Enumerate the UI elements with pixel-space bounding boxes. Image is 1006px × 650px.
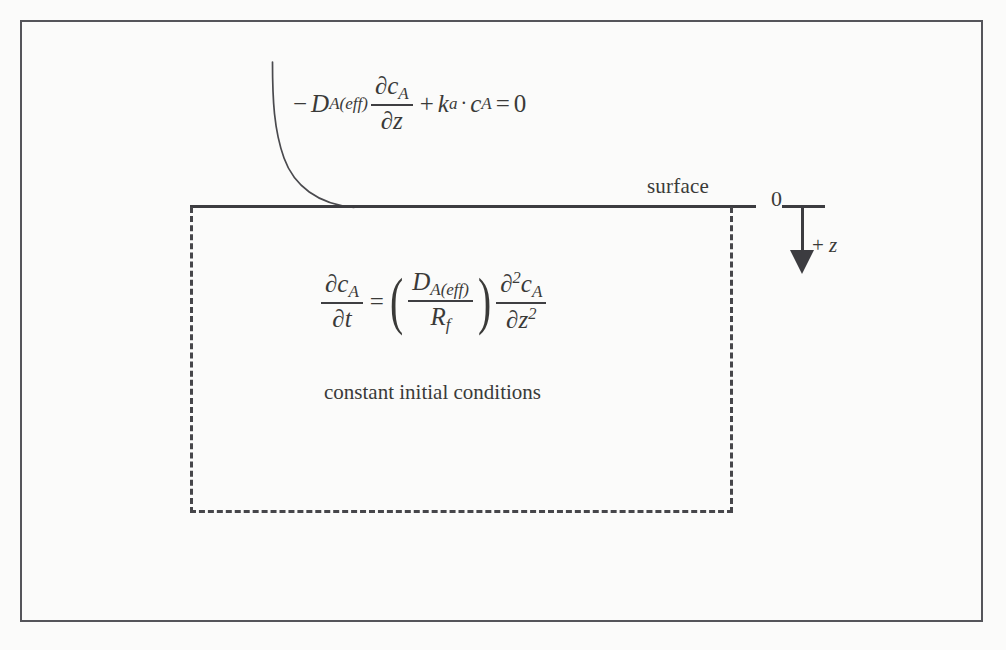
bc-minus-sign: − — [293, 91, 307, 116]
pde-coef-num-subscript: A(eff) — [430, 280, 469, 299]
pde-rhs-den-var: z — [518, 306, 528, 333]
pde-coefficient-fraction: DA(eff) Rf — [408, 268, 473, 334]
boundary-condition-equation: − D A(eff) ∂cA ∂z + k a · c A = 0 — [289, 72, 526, 135]
depth-axis-variable: z — [829, 233, 837, 257]
bc-right-hand-side: 0 — [514, 91, 527, 116]
pde-lhs-num-partial: ∂ — [325, 270, 337, 297]
governing-diffusion-equation: ∂cA ∂t = ( DA(eff) Rf ) — [318, 268, 549, 334]
pde-rhs-num-exponent: 2 — [513, 269, 521, 287]
pde-lhs-num-var: c — [337, 270, 348, 297]
pde-equals-sign: = — [370, 289, 384, 314]
pde-lhs-den-var: t — [345, 305, 352, 332]
pde-lhs-fraction: ∂cA ∂t — [321, 270, 363, 333]
bc-num-var: c — [387, 72, 398, 99]
bc-rate-subscript: a — [449, 95, 458, 112]
depth-axis-plus-sign: + — [812, 233, 824, 257]
pde-rhs-num-partial: ∂ — [500, 270, 512, 297]
bc-gradient-fraction: ∂cA ∂z — [371, 72, 413, 135]
diagram-canvas: − D A(eff) ∂cA ∂z + k a · c A = 0 surfac… — [0, 0, 1006, 650]
soil-domain-dashed-box — [190, 207, 733, 513]
bc-num-partial: ∂ — [375, 72, 387, 99]
pde-rhs-den-partial: ∂ — [506, 306, 518, 333]
pde-coef-den-symbol: R — [431, 303, 446, 330]
pde-rhs-fraction: ∂2cA ∂z2 — [496, 269, 546, 334]
pde-rhs-num-subscript: A — [532, 282, 542, 301]
pde-rhs-den-exponent: 2 — [528, 305, 536, 323]
bc-diffusion-subscript: A(eff) — [329, 95, 368, 112]
bc-den-partial: ∂ — [381, 107, 393, 134]
bc-equals-sign: = — [496, 91, 510, 116]
bc-num-subscript: A — [398, 84, 408, 103]
bc-plus-sign: + — [420, 91, 434, 116]
bc-rate-symbol: k — [438, 91, 449, 116]
bc-dot-operator: · — [460, 93, 467, 113]
depth-axis-label: + z — [812, 233, 837, 258]
pde-paren-open: ( — [390, 276, 403, 326]
bc-den-var: z — [393, 107, 403, 134]
depth-axis-arrowhead-icon — [790, 250, 814, 274]
pde-lhs-den-partial: ∂ — [332, 305, 344, 332]
pde-lhs-num-subscript: A — [348, 282, 358, 301]
initial-conditions-label: constant initial conditions — [324, 380, 541, 405]
pde-rhs-num-var: c — [521, 270, 532, 297]
bc-conc-symbol: c — [470, 91, 481, 116]
bc-conc-subscript: A — [481, 95, 491, 112]
surface-label: surface — [647, 174, 709, 199]
bc-diffusion-symbol: D — [311, 91, 329, 116]
pde-coef-num-symbol: D — [412, 268, 430, 295]
origin-zero-label: 0 — [771, 186, 782, 212]
pde-paren-close: ) — [478, 276, 491, 326]
depth-axis-shaft — [801, 206, 804, 254]
pde-coef-den-subscript: f — [446, 315, 451, 334]
